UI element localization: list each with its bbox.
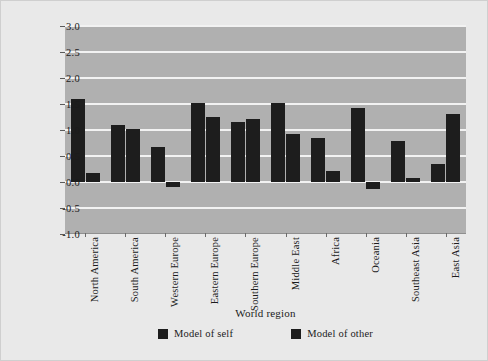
bar-model-of-self — [391, 141, 405, 182]
x-tick-mark — [85, 233, 86, 237]
bar-model-of-other — [286, 134, 300, 182]
plot-area — [65, 26, 466, 234]
bar-group — [191, 26, 220, 234]
x-tick-mark — [245, 233, 246, 237]
y-tick-label: 1.5 — [34, 99, 80, 110]
y-tick-label: 0.5 — [34, 151, 80, 162]
bar-model-of-other — [446, 114, 460, 182]
x-tick-mark — [125, 233, 126, 237]
bar-model-of-other — [166, 182, 180, 187]
x-tick-mark — [366, 233, 367, 237]
bar-model-of-self — [431, 164, 445, 182]
bar-model-of-self — [231, 122, 245, 182]
bar-model-of-self — [191, 103, 205, 182]
bar-model-of-other — [246, 119, 260, 182]
x-axis-ticks: North AmericaSouth AmericaWestern Europe… — [65, 237, 466, 309]
bar-model-of-self — [351, 108, 365, 182]
legend-swatch-icon — [291, 329, 301, 339]
legend-item: Model of self — [158, 328, 233, 339]
bar-group — [231, 26, 260, 234]
bar-group — [111, 26, 140, 234]
x-tick-mark — [205, 233, 206, 237]
x-tick-mark — [165, 233, 166, 237]
x-tick-mark — [446, 233, 447, 237]
bar-model-of-self — [111, 125, 125, 182]
y-axis-title-text: Internal working models — [15, 0, 27, 41]
legend-label: Model of self — [174, 328, 233, 339]
bar-model-of-other — [326, 171, 340, 182]
legend-label: Model of other — [307, 328, 373, 339]
bar-model-of-self — [71, 99, 85, 182]
bar-group — [391, 26, 420, 234]
bar-model-of-self — [311, 138, 325, 182]
bar-model-of-other — [86, 173, 100, 182]
y-tick-label: 2.5 — [34, 47, 80, 58]
chart-legend: Model of selfModel of other — [65, 328, 466, 339]
y-tick-label: 0.0 — [34, 177, 80, 188]
y-tick-label: 2.0 — [34, 73, 80, 84]
y-tick-label: 1.0 — [34, 125, 80, 136]
x-tick-mark — [286, 233, 287, 237]
x-axis-title: World region — [65, 307, 466, 319]
bar-model-of-other — [206, 117, 220, 182]
bar-model-of-other — [126, 129, 140, 182]
bar-group — [351, 26, 380, 234]
chart-figure: Internal working models 3.02.52.01.51.00… — [0, 0, 488, 361]
bar-model-of-other — [406, 178, 420, 182]
bar-model-of-self — [151, 147, 165, 182]
y-tick-label: 3.0 — [34, 21, 80, 32]
bar-group — [271, 26, 300, 234]
bar-model-of-other — [366, 182, 380, 189]
bar-group — [151, 26, 180, 234]
y-axis-title: Internal working models — [15, 0, 35, 41]
x-tick-mark — [406, 233, 407, 237]
bar-model-of-self — [271, 103, 285, 182]
bar-group — [431, 26, 460, 234]
y-tick-label: -0.5 — [34, 203, 80, 214]
legend-item: Model of other — [291, 328, 373, 339]
legend-swatch-icon — [158, 329, 168, 339]
bar-group — [311, 26, 340, 234]
x-tick-mark — [326, 233, 327, 237]
